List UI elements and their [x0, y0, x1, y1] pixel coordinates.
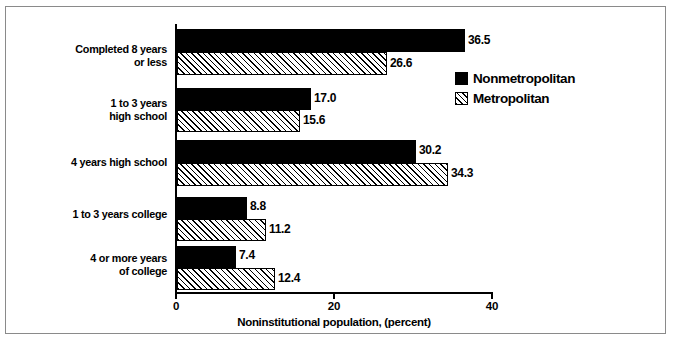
bar-value-nonmetropolitan-2: 30.2 [419, 144, 441, 157]
category-label-4: 4 or more years of college [0, 252, 167, 277]
bar-nonmetropolitan-4 [177, 246, 236, 268]
bar-metropolitan-0 [177, 52, 387, 75]
bar-value-nonmetropolitan-3: 8.8 [250, 200, 266, 213]
legend-item-metropolitan: Metropolitan [455, 88, 575, 108]
bar-value-metropolitan-3: 11.2 [269, 223, 291, 236]
category-label-0: Completed 8 years or less [0, 43, 167, 68]
bar-nonmetropolitan-0 [177, 29, 465, 52]
bar-chart-figure: 0 20 40 Noninstitutional population, (pe… [0, 0, 673, 341]
x-axis-title: Noninstitutional population, (percent) [175, 316, 493, 328]
bar-nonmetropolitan-1 [177, 88, 311, 110]
category-label-2: 4 years high school [0, 156, 167, 169]
bar-value-metropolitan-2: 34.3 [451, 167, 473, 180]
bar-metropolitan-4 [177, 268, 275, 290]
x-tick-label-20: 20 [314, 300, 354, 313]
bar-nonmetropolitan-3 [177, 197, 247, 219]
legend-label-metropolitan: Metropolitan [473, 91, 549, 106]
bar-value-nonmetropolitan-4: 7.4 [239, 249, 255, 262]
bar-value-metropolitan-4: 12.4 [278, 272, 300, 285]
x-tick-label-40: 40 [472, 300, 512, 313]
x-tick-20 [333, 292, 335, 299]
bar-metropolitan-1 [177, 110, 300, 132]
legend-label-nonmetropolitan: Nonmetropolitan [473, 71, 575, 86]
plot-area: 0 20 40 Noninstitutional population, (pe… [0, 0, 673, 341]
bar-value-metropolitan-1: 15.6 [303, 114, 325, 127]
x-tick-0 [175, 292, 177, 299]
legend-item-nonmetropolitan: Nonmetropolitan [455, 68, 575, 88]
x-tick-label-0: 0 [156, 300, 196, 313]
category-label-3: 1 to 3 years college [0, 208, 167, 221]
chart-legend: Nonmetropolitan Metropolitan [455, 68, 575, 108]
bar-nonmetropolitan-2 [177, 140, 416, 163]
category-label-1: 1 to 3 years high school [0, 97, 167, 122]
bar-value-nonmetropolitan-1: 17.0 [314, 92, 336, 105]
hatched-swatch-icon [455, 92, 468, 105]
bar-value-nonmetropolitan-0: 36.5 [468, 34, 490, 47]
bar-metropolitan-2 [177, 163, 448, 186]
bar-metropolitan-3 [177, 219, 266, 241]
x-tick-40 [491, 292, 493, 299]
bar-value-metropolitan-0: 26.6 [390, 57, 412, 70]
solid-black-swatch-icon [455, 72, 468, 85]
